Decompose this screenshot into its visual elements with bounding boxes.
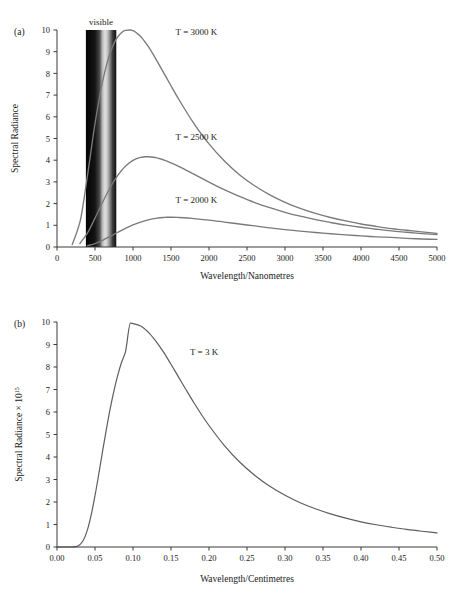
tick-label: 4: [46, 452, 51, 462]
curve-3K: [57, 323, 437, 547]
panel-a: 0500100015002000250030003500400045005000…: [0, 0, 455, 292]
tick-label: 1000: [125, 253, 142, 263]
curve-2000K: [87, 217, 437, 245]
tick-label: 3000: [277, 253, 294, 263]
tick-label: 5: [46, 430, 50, 440]
panel-a-x-ticks: [57, 247, 437, 251]
panel-a-svg: 0500100015002000250030003500400045005000…: [0, 0, 455, 292]
panel-b-y-axis-title-exponent: 15: [14, 387, 20, 393]
tick-label: 8: [46, 69, 50, 79]
tick-label: 0.20: [202, 553, 217, 563]
tick-label: 500: [89, 253, 102, 263]
panel-a-y-axis-title: Spectral Radiance: [10, 104, 20, 173]
panel-b-y-axis-title-main: Spectral Radiance × 10: [14, 393, 24, 482]
tick-label: 0.05: [88, 553, 103, 563]
visible-spectrum-band: [86, 30, 116, 247]
tick-label: 4000: [353, 253, 370, 263]
tick-label: 9: [46, 340, 50, 350]
tick-label: 0: [55, 253, 59, 263]
panel-b-y-axis-title: Spectral Radiance × 1015: [14, 387, 24, 481]
tick-label: 4500: [391, 253, 408, 263]
tick-label: 0.45: [392, 553, 407, 563]
tick-label: 4: [46, 155, 51, 165]
tick-label: 10: [42, 25, 51, 35]
tick-label: 7: [46, 90, 50, 100]
panel-a-x-tick-labels: 0500100015002000250030003500400045005000: [55, 253, 446, 263]
tick-label: 0.30: [278, 553, 293, 563]
panel-a-tag: (a): [14, 27, 25, 38]
tick-label: 2000: [201, 253, 218, 263]
panel-b-tag: (b): [14, 319, 25, 330]
panel-a-y-tick-labels: 012345678910: [42, 25, 51, 252]
tick-label: 0.40: [354, 553, 369, 563]
panel-b-y-ticks: [54, 322, 58, 547]
tick-label: 7: [46, 385, 50, 395]
tick-label: 0: [46, 242, 50, 252]
series-label-3K: T = 3 K: [190, 347, 219, 357]
tick-label: 1: [46, 520, 50, 530]
series-label-2000K: T = 2000 K: [176, 195, 218, 205]
tick-label: 0.25: [240, 553, 255, 563]
visible-band-label: visible: [89, 17, 113, 27]
series-label-2500K: T = 2500 K: [176, 132, 218, 142]
panel-b-x-ticks: [57, 547, 437, 551]
panel-a-y-ticks: [54, 30, 58, 247]
panel-a-x-axis-title: Wavelength/Nanometres: [200, 271, 294, 281]
tick-label: 1: [46, 220, 50, 230]
tick-label: 9: [46, 47, 50, 57]
panel-b-x-tick-labels: 0.000.050.100.150.200.250.300.350.400.45…: [50, 553, 445, 563]
tick-label: 0.15: [164, 553, 179, 563]
panel-b: 0.000.050.100.150.200.250.300.350.400.45…: [0, 292, 455, 602]
tick-label: 6: [46, 112, 50, 122]
tick-label: 0.35: [316, 553, 331, 563]
tick-label: 6: [46, 407, 50, 417]
tick-label: 10: [42, 317, 51, 327]
tick-label: 1500: [163, 253, 180, 263]
tick-label: 2500: [239, 253, 256, 263]
blackbody-radiation-figure: 0500100015002000250030003500400045005000…: [0, 0, 455, 602]
tick-label: 5: [46, 134, 50, 144]
curve-3000K: [72, 30, 437, 245]
tick-label: 0.00: [50, 553, 65, 563]
tick-label: 0.50: [430, 553, 445, 563]
tick-label: 3: [46, 177, 50, 187]
series-label-3000K: T = 3000 K: [176, 27, 218, 37]
tick-label: 2: [46, 497, 50, 507]
curve-2500K: [80, 157, 437, 244]
tick-label: 3: [46, 475, 50, 485]
tick-label: 3500: [315, 253, 332, 263]
panel-b-svg: 0.000.050.100.150.200.250.300.350.400.45…: [0, 292, 455, 602]
tick-label: 0: [46, 542, 50, 552]
tick-label: 5000: [429, 253, 446, 263]
tick-label: 8: [46, 362, 50, 372]
panel-b-y-tick-labels: 012345678910: [42, 317, 51, 552]
panel-b-x-axis-title: Wavelength/Centimetres: [200, 574, 294, 584]
tick-label: 0.10: [126, 553, 141, 563]
tick-label: 2: [46, 199, 50, 209]
